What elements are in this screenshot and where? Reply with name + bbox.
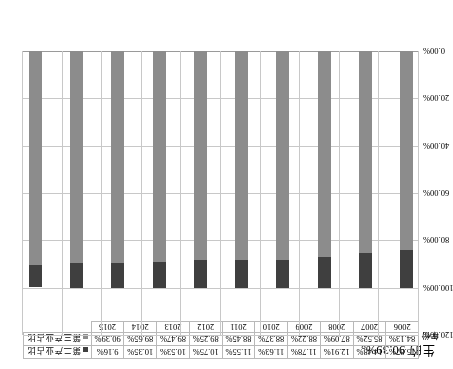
y-axis-tick-label: 100.00%	[423, 283, 453, 293]
bar-segment-second-industry	[29, 265, 42, 287]
table-cell-value: 9.16%	[91, 346, 124, 359]
bar-segment-second-industry	[318, 257, 331, 288]
column-rule	[22, 51, 23, 335]
bar-segment-second-industry	[400, 250, 413, 288]
table-cell-value: 10.53%	[157, 346, 190, 359]
column-rule	[62, 51, 63, 335]
bar-segment-third-industry	[194, 51, 207, 260]
bar-column	[111, 51, 124, 335]
legend-label: 第二产业占比	[27, 346, 81, 356]
plot-area: 0.00%20.00%40.00%60.00%80.00%100.00%120.…	[23, 51, 419, 335]
square-swatch-icon	[83, 347, 88, 352]
bar-segment-third-industry	[70, 51, 83, 263]
column-rule	[260, 51, 261, 335]
table-cell-value: 10.35%	[124, 346, 157, 359]
table-cell-value: 12.91%	[320, 346, 353, 359]
bar-segment-second-industry	[194, 260, 207, 287]
column-rule	[220, 51, 221, 335]
bar-segment-second-industry	[359, 253, 372, 287]
table-cell-value: 11.78%	[288, 346, 321, 359]
table-cell-value: 11.55%	[222, 346, 255, 359]
table-cell-value: 15.87%	[386, 346, 419, 359]
y-axis-tick-label: 0.00%	[423, 46, 445, 56]
legend-entry: 第二产业占比	[24, 346, 92, 359]
bar-column	[70, 51, 83, 335]
bar-segment-third-industry	[318, 51, 331, 257]
bar-column	[400, 51, 413, 335]
bar-segment-third-industry	[400, 51, 413, 250]
bar-segment-third-industry	[153, 51, 166, 262]
column-rule	[339, 51, 340, 335]
bar-series-container	[23, 51, 419, 335]
bar-column	[235, 51, 248, 335]
bar-segment-second-industry	[235, 260, 248, 288]
bar-column	[29, 51, 42, 335]
y-axis-tick-label: 60.00%	[423, 188, 449, 198]
bar-column	[276, 51, 289, 335]
table-cell-value: 11.63%	[255, 346, 288, 359]
bar-column	[318, 51, 331, 335]
column-rule	[378, 51, 379, 335]
bar-segment-third-industry	[235, 51, 248, 260]
y-axis-tick-label: 120.00%	[423, 330, 453, 340]
y-axis-tick-label: 80.00%	[423, 235, 449, 245]
bar-segment-second-industry	[153, 262, 166, 287]
bar-segment-second-industry	[70, 263, 83, 287]
bar-column	[359, 51, 372, 335]
table-cell-value: 10.75%	[189, 346, 222, 359]
column-rule	[299, 51, 300, 335]
y-axis-tick-label: 40.00%	[423, 141, 449, 151]
bar-segment-third-industry	[29, 51, 42, 265]
table-cell-value: 14.48%	[353, 346, 386, 359]
column-rule	[180, 51, 181, 335]
bar-segment-third-industry	[276, 51, 289, 260]
bar-segment-third-industry	[111, 51, 124, 263]
bar-column	[153, 51, 166, 335]
bar-segment-third-industry	[359, 51, 372, 253]
bar-segment-second-industry	[276, 260, 289, 288]
column-rule	[141, 51, 142, 335]
column-rule	[418, 51, 419, 335]
gridline: 120.00%	[23, 335, 419, 336]
bar-segment-second-industry	[111, 263, 124, 288]
column-rule	[101, 51, 102, 335]
y-axis-tick-label: 20.00%	[423, 93, 449, 103]
table-row: 15.87%14.48%12.91%11.78%11.63%11.55%10.7…	[24, 346, 419, 359]
bar-column	[194, 51, 207, 335]
